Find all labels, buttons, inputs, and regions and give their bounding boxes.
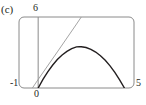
straight-line-series [32,17,81,88]
plot-frame [19,17,134,88]
x-axis-tick-label-right: 5 [136,77,141,88]
x-axis-tick-label-zero: 0 [34,88,39,99]
y-axis-tick-label-top: 6 [33,2,38,13]
figure-panel: (c) 6 -1 0 5 [0,0,146,105]
parabola-series [38,47,124,88]
plot-area [0,0,146,105]
x-axis-tick-label-left: -1 [10,77,18,88]
